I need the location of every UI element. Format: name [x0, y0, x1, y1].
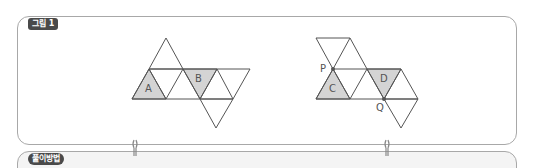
label-c: C — [329, 83, 336, 94]
label-a: A — [145, 83, 152, 94]
binder-ring-left — [133, 140, 137, 156]
label-d: D — [380, 73, 388, 84]
binder-ring-right — [385, 140, 389, 156]
point-p-marker — [331, 67, 335, 71]
figures-canvas: A B P Q C D — [0, 0, 545, 168]
label-p: P — [320, 63, 326, 74]
label-q: Q — [376, 102, 384, 113]
point-q-marker — [382, 97, 386, 101]
label-b: B — [195, 73, 202, 84]
